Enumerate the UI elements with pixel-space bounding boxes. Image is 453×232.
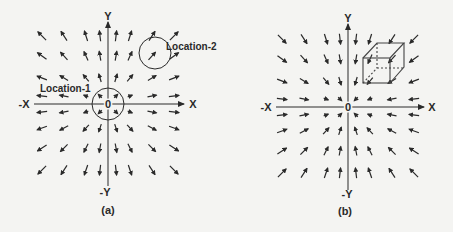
field-vector <box>278 169 286 177</box>
field-vector <box>61 165 67 174</box>
field-vector <box>115 124 118 132</box>
field-vector <box>338 97 342 101</box>
field-vector <box>410 169 418 177</box>
axis-label-neg-x: -X <box>261 101 273 113</box>
field-vector <box>37 95 47 96</box>
field-vector <box>127 125 133 131</box>
field-vector <box>149 52 156 60</box>
field-vector <box>128 95 133 97</box>
panel-a-caption: (a) <box>101 204 115 216</box>
field-vector <box>149 165 155 174</box>
origin-label: 0 <box>345 101 351 113</box>
field-vector <box>324 147 328 155</box>
field-vector <box>170 32 178 40</box>
field-vector <box>367 128 373 134</box>
field-vector <box>355 54 357 63</box>
field-vector <box>323 78 329 85</box>
field-vector <box>277 114 287 115</box>
field-vector <box>323 128 329 134</box>
field-vector <box>37 145 46 151</box>
field-vector <box>410 35 418 43</box>
field-vector <box>409 129 419 133</box>
field-vector <box>409 79 419 83</box>
field-vector <box>277 79 287 83</box>
field-vector <box>388 98 397 100</box>
field-vector <box>300 98 309 100</box>
cube-volume-element <box>363 43 404 83</box>
axis-label-y: Y <box>104 10 112 22</box>
field-vector <box>60 95 69 97</box>
field-vector <box>339 168 340 178</box>
field-vector <box>99 74 101 82</box>
field-vector <box>128 165 131 175</box>
field-vector <box>324 98 329 100</box>
field-vector <box>37 126 47 130</box>
field-vector <box>169 126 179 130</box>
field-vector <box>324 168 327 178</box>
field-vector <box>148 126 156 131</box>
field-vector <box>84 165 87 175</box>
field-vector <box>339 34 340 44</box>
field-vector <box>355 34 356 44</box>
field-vector <box>148 111 157 113</box>
field-vector <box>300 79 308 84</box>
field-vector <box>84 144 88 152</box>
panel-b: Y -Y X -X 0 (b) <box>261 12 437 217</box>
axis-label-x: X <box>189 98 197 110</box>
field-vector <box>301 34 307 43</box>
field-vector <box>127 75 133 82</box>
field-vector <box>324 114 329 116</box>
field-vector <box>389 34 395 43</box>
field-vector <box>84 31 87 41</box>
field-vector <box>354 97 358 101</box>
field-vector <box>388 114 397 116</box>
location-2-label: Location-2 <box>166 41 217 52</box>
axis-label-y: Y <box>344 12 352 24</box>
field-vector <box>115 165 116 175</box>
axis-label-neg-y: -Y <box>100 186 112 198</box>
field-vector <box>128 52 132 61</box>
field-vector <box>388 147 395 154</box>
field-vector <box>368 55 372 64</box>
panel-b-caption: (b) <box>338 205 352 217</box>
field-vector <box>278 56 287 63</box>
field-vector <box>60 111 69 113</box>
field-vector <box>83 125 89 131</box>
field-vector <box>354 113 358 117</box>
field-vector <box>115 51 117 60</box>
field-vector <box>128 31 131 41</box>
axis-label-x: X <box>428 101 436 113</box>
field-vector <box>61 52 68 60</box>
field-vector <box>368 114 373 116</box>
field-vector <box>355 127 358 135</box>
field-vector <box>84 111 89 113</box>
field-vector <box>300 129 308 134</box>
field-vector <box>60 76 68 81</box>
field-vector <box>278 35 286 43</box>
field-vector <box>99 165 100 175</box>
field-vector <box>339 147 341 156</box>
field-vector <box>169 111 179 112</box>
field-vector <box>169 95 179 96</box>
field-vector <box>277 148 286 154</box>
field-vector <box>170 166 178 174</box>
field-vector <box>339 127 342 135</box>
field-vector <box>277 129 287 133</box>
field-vector <box>115 74 117 82</box>
field-vector <box>114 94 118 98</box>
axis-label-neg-x: -X <box>19 98 31 110</box>
field-vector <box>409 98 419 99</box>
field-vector <box>301 168 307 177</box>
field-vector <box>98 110 102 114</box>
field-vector <box>38 32 46 40</box>
vector-field-figure: Y -Y X -X 0 Location-1 Location-2 (a) Y … <box>0 0 453 232</box>
field-vector <box>324 55 328 64</box>
field-vector <box>389 168 395 177</box>
field-vector <box>355 168 356 178</box>
field-vector <box>148 144 155 151</box>
field-vector <box>148 76 156 81</box>
field-vector <box>339 54 341 63</box>
field-vector <box>338 113 342 117</box>
field-vector <box>99 124 102 132</box>
field-vector <box>99 51 101 60</box>
